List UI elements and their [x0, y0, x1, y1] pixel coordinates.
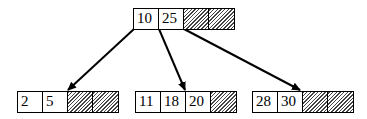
child-1-key-1: 18 — [161, 92, 186, 112]
edge-root-to-child-2 — [184, 29, 300, 90]
child-1-empty-slot — [211, 92, 236, 112]
child-0-empty-slot — [93, 92, 118, 112]
root-key-0: 10 — [134, 9, 159, 29]
child-0-key-0: 2 — [18, 92, 43, 112]
edge-root-to-child-0 — [68, 29, 134, 90]
child-1-key-0: 11 — [136, 92, 161, 112]
child-node-2: 28 30 — [252, 91, 354, 113]
child-2-key-1: 30 — [278, 92, 303, 112]
child-node-1: 11 18 20 — [135, 91, 237, 113]
child-0-empty-slot — [68, 92, 93, 112]
child-node-0: 2 5 — [17, 91, 119, 113]
child-2-empty-slot — [303, 92, 328, 112]
root-key-1: 25 — [159, 9, 184, 29]
child-2-key-0: 28 — [253, 92, 278, 112]
child-1-key-2: 20 — [186, 92, 211, 112]
child-2-empty-slot — [328, 92, 353, 112]
edge-root-to-child-1 — [159, 29, 185, 90]
child-0-key-1: 5 — [43, 92, 68, 112]
root-node: 10 25 — [133, 8, 235, 30]
root-empty-slot — [184, 9, 209, 29]
root-empty-slot — [209, 9, 234, 29]
